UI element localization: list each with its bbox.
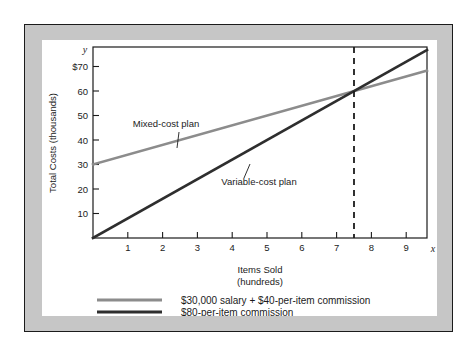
x-tick-label: 7 xyxy=(334,242,339,253)
annotation-variable-cost-plan: Variable-cost plan xyxy=(221,164,296,187)
x-tick-label: 6 xyxy=(299,242,304,253)
chart-svg: y x 10 20 30 40 50 60 $70 xyxy=(42,40,437,316)
legend-label-mixed-cost-plan: $30,000 salary + $40-per-item commission xyxy=(181,295,370,306)
x-axis-title-sub: (hundreds) xyxy=(237,276,283,287)
y-tick-label: 50 xyxy=(77,110,88,121)
figure-root: y x 10 20 30 40 50 60 $70 xyxy=(0,0,475,356)
y-tick-label: 40 xyxy=(77,135,88,146)
y-tick-label: 10 xyxy=(77,208,88,219)
x-axis-title: Items Sold xyxy=(238,264,283,275)
y-axis-ticks: 10 20 30 40 50 60 $70 xyxy=(72,61,99,219)
x-axis-letter: x xyxy=(430,243,436,254)
x-tick-label: 4 xyxy=(230,242,235,253)
x-tick-label: 9 xyxy=(404,242,409,253)
x-tick-label: 5 xyxy=(264,242,269,253)
x-tick-label: 1 xyxy=(125,242,130,253)
y-tick-label: 60 xyxy=(77,86,88,97)
x-tick-label: 8 xyxy=(369,242,374,253)
chart-legend: $30,000 salary + $40-per-item commission… xyxy=(97,295,370,316)
cost-comparison-chart: y x 10 20 30 40 50 60 $70 xyxy=(42,40,437,316)
legend-item-variable-cost-plan: $80-per-item commission xyxy=(97,307,293,316)
series-line-variable-cost-plan xyxy=(93,50,427,238)
y-tick-label: 20 xyxy=(77,184,88,195)
annotation-label: Variable-cost plan xyxy=(221,176,296,187)
y-axis-letter: y xyxy=(82,44,88,55)
x-tick-label: 3 xyxy=(195,242,200,253)
legend-label-variable-cost-plan: $80-per-item commission xyxy=(181,307,293,316)
y-tick-label: $70 xyxy=(72,61,88,72)
legend-item-mixed-cost-plan: $30,000 salary + $40-per-item commission xyxy=(97,295,370,306)
y-tick-label: 30 xyxy=(77,159,88,170)
annotation-label: Mixed-cost plan xyxy=(133,118,200,129)
x-axis-ticks: 1 2 3 4 5 6 7 8 9 xyxy=(125,232,409,253)
y-axis-title: Total Costs (thousands) xyxy=(47,93,58,193)
x-tick-label: 2 xyxy=(160,242,165,253)
